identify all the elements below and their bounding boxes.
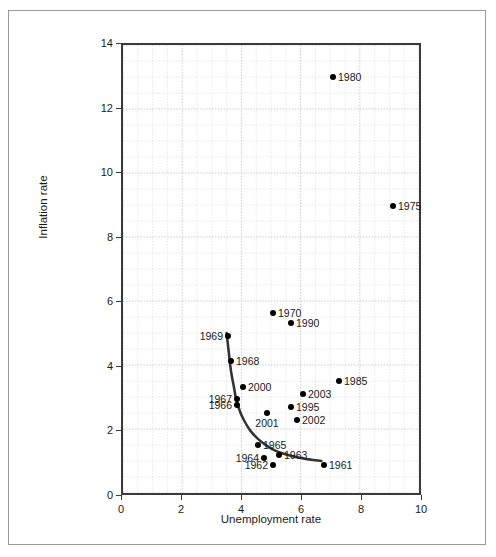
x-tick-mark <box>181 495 182 500</box>
y-tick-label: 2 <box>83 424 113 436</box>
y-tick-mark <box>116 43 121 44</box>
y-tick-label: 14 <box>83 37 113 49</box>
y-tick-label: 0 <box>83 489 113 501</box>
x-tick-mark <box>421 495 422 500</box>
y-tick-mark <box>116 430 121 431</box>
y-tick-mark <box>116 237 121 238</box>
y-tick-label: 6 <box>83 295 113 307</box>
y-tick-mark <box>116 108 121 109</box>
y-tick-label: 8 <box>83 231 113 243</box>
y-tick-label: 4 <box>83 360 113 372</box>
y-axis-title: Inflation rate <box>37 137 49 277</box>
x-tick-mark <box>121 495 122 500</box>
x-tick-mark <box>361 495 362 500</box>
x-tick-mark <box>301 495 302 500</box>
y-tick-mark <box>116 301 121 302</box>
y-tick-label: 12 <box>83 102 113 114</box>
x-tick-mark <box>241 495 242 500</box>
y-tick-mark <box>116 366 121 367</box>
y-tick-label: 10 <box>83 166 113 178</box>
figure-frame: 1980197519701990196919681985200020031967… <box>8 10 486 545</box>
x-axis-title: Unemployment rate <box>121 513 421 525</box>
y-tick-mark <box>116 172 121 173</box>
phillips-curve <box>123 45 419 493</box>
plot-area: 1980197519701990196919681985200020031967… <box>121 43 421 495</box>
